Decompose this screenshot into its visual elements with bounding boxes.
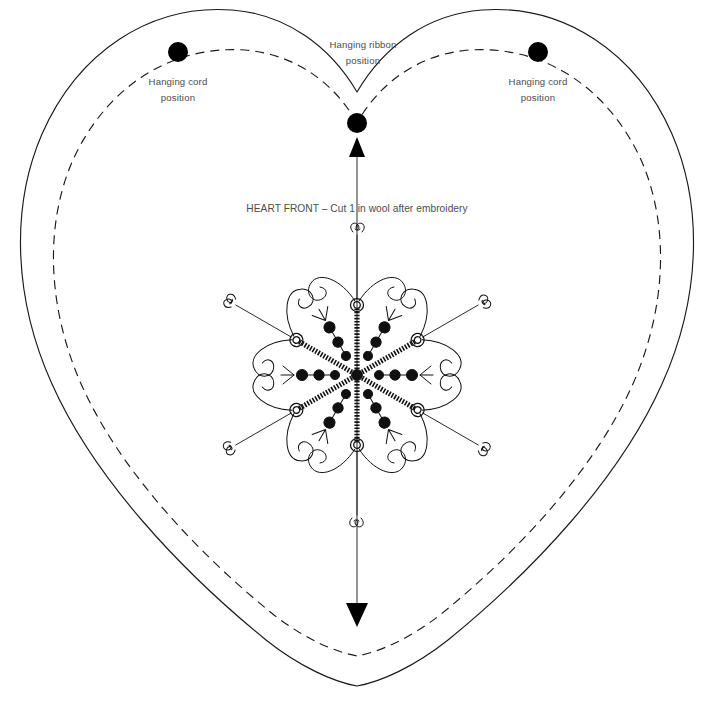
grain-arrow-up-icon (349, 137, 365, 157)
snowflake-arm (201, 257, 326, 385)
snowflake-arm (201, 365, 326, 493)
hanging-cord-right-label-line1: Hanging cord (509, 76, 568, 87)
french-knot-chain (374, 366, 433, 384)
snowflake-arm (388, 257, 513, 385)
hanging-cord-left-label-line1: Hanging cord (149, 76, 208, 87)
hanging-cord-right-label-line2: position (521, 92, 555, 103)
grain-arrow-down-icon (346, 603, 368, 627)
french-knot-chain (358, 386, 403, 446)
hanging-ribbon-label-line2: position (346, 55, 380, 66)
french-knot-chain (311, 386, 356, 446)
hanging-ribbon-label-line1: Hanging ribbon (329, 39, 396, 50)
hanging-cord-left-dot[interactable] (168, 42, 188, 62)
french-knot-chain (311, 305, 356, 365)
heart-pattern-drawing: Hanging cord position Hanging ribbon pos… (0, 0, 710, 711)
pattern-sheet: Hanging cord position Hanging ribbon pos… (0, 0, 710, 711)
snowflake-embroidery-motif (201, 223, 513, 527)
snowflake-arm (309, 223, 406, 311)
hanging-ribbon-center-dot[interactable] (347, 113, 367, 133)
french-knot-chain (358, 305, 403, 365)
french-knot-chain (281, 366, 340, 384)
hanging-cord-left-label-line2: position (161, 92, 195, 103)
snowflake-arm (388, 365, 513, 493)
snowflake-arm (309, 439, 406, 527)
hanging-cord-right-dot[interactable] (528, 42, 548, 62)
